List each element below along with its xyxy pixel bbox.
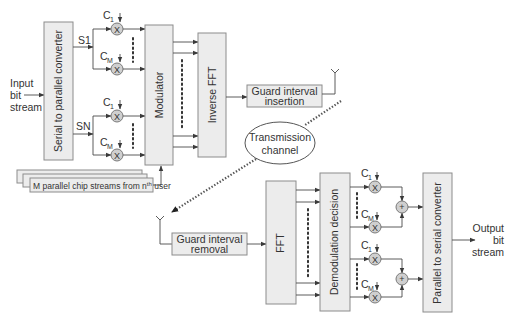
fft-block: FFT (266, 181, 296, 304)
tx-antenna-icon (322, 69, 339, 94)
svg-text:1: 1 (110, 103, 114, 110)
svg-text:X: X (372, 223, 378, 233)
svg-text:FFT: FFT (274, 233, 286, 253)
rx-multiplier-2-cm: C M X (361, 278, 381, 303)
svg-text:1: 1 (368, 246, 372, 253)
rx-adder-1: + (396, 201, 408, 213)
serial-to-parallel-block: Serial to parallel converter (44, 22, 73, 160)
svg-text:bit: bit (10, 89, 21, 101)
svg-text:1: 1 (368, 174, 372, 181)
svg-text:+: + (399, 274, 404, 284)
s1-label: S1 (78, 34, 91, 46)
svg-text:stream: stream (10, 101, 42, 113)
rx-multiplier-2-c1: C 1 X (361, 239, 381, 265)
svg-text:Transmission: Transmission (249, 131, 311, 143)
rx-adder-2: + (396, 273, 408, 285)
svg-text:X: X (114, 112, 120, 122)
channel-link-out (172, 159, 256, 212)
rx-antenna-icon (156, 216, 172, 244)
svg-text:stream: stream (472, 246, 504, 258)
svg-text:Input: Input (10, 77, 33, 89)
svg-text:Serial to parallel converter: Serial to parallel converter (52, 30, 64, 152)
svg-text:X: X (114, 65, 120, 75)
inverse-fft-block: Inverse FFT (198, 33, 226, 157)
svg-text:+: + (399, 202, 404, 212)
transmission-channel: Transmission channel (245, 122, 315, 164)
svg-text:Inverse FFT: Inverse FFT (206, 66, 218, 123)
svg-text:M: M (107, 57, 113, 64)
tx-multiplier-s1-cm: C M X (100, 50, 123, 75)
modulator-block: Modulator (145, 25, 173, 165)
svg-text:1: 1 (110, 16, 114, 23)
tx-multiplier-sn-c1: C 1 X (103, 96, 123, 122)
svg-text:removal: removal (191, 243, 228, 255)
chip-streams-block: M parallel chip streams from nth user (17, 170, 171, 192)
guard-interval-insertion-block: Guard interval insertion (247, 85, 322, 107)
svg-text:Parallel to serial converter: Parallel to serial converter (431, 182, 443, 304)
svg-text:X: X (114, 151, 120, 161)
svg-text:M: M (107, 143, 113, 150)
output-label: Output bit stream (472, 222, 504, 258)
sn-label: SN (76, 120, 91, 132)
tx-multiplier-s1-c1: C 1 X (103, 9, 123, 35)
guard-interval-removal-block: Guard interval removal (172, 233, 247, 255)
svg-text:X: X (372, 183, 378, 193)
svg-text:Output: Output (472, 222, 504, 234)
tx-multiplier-sn-cm: C M X (100, 136, 123, 161)
rx-multiplier-1-c1: C 1 X (361, 167, 381, 193)
svg-text:Modulator: Modulator (153, 71, 165, 118)
mc-cdma-diagram: Input bit stream Serial to parallel conv… (0, 0, 508, 328)
parallel-to-serial-block: Parallel to serial converter (423, 173, 452, 312)
svg-text:X: X (114, 25, 120, 35)
svg-text:Demodulation decision: Demodulation decision (328, 189, 340, 295)
svg-text:channel: channel (262, 144, 299, 156)
svg-text:X: X (372, 293, 378, 303)
svg-text:X: X (372, 255, 378, 265)
rx-multiplier-1-cm: C M X (361, 208, 381, 233)
svg-text:insertion: insertion (265, 95, 305, 107)
demodulation-decision-block: Demodulation decision (320, 173, 350, 311)
svg-text:bit: bit (493, 234, 504, 246)
